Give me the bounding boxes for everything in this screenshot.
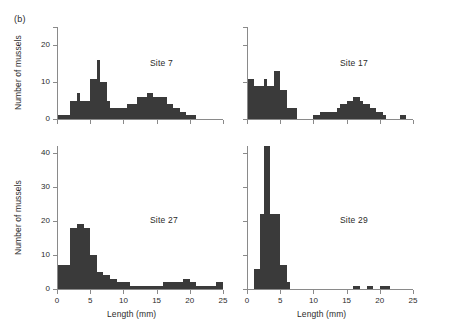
- histogram-bar: [287, 282, 290, 289]
- y-axis-tick: [243, 187, 247, 188]
- x-tick-label: 25: [401, 296, 425, 305]
- x-axis-tick: [313, 290, 314, 294]
- x-tick-label: 15: [335, 296, 359, 305]
- y-axis-tick: [243, 289, 247, 290]
- x-axis-label: Length (mm): [297, 309, 346, 319]
- x-tick-label: 20: [368, 296, 392, 305]
- y-axis-line: [247, 146, 248, 290]
- panel-title: Site 29: [340, 215, 368, 225]
- y-axis-tick: [243, 153, 247, 154]
- histogram-panel-site-29: 0510152025Site 29Length (mm): [0, 0, 449, 326]
- y-axis-tick: [243, 255, 247, 256]
- x-tick-label: 10: [301, 296, 325, 305]
- x-axis-tick: [380, 290, 381, 294]
- x-tick-label: 0: [235, 296, 259, 305]
- figure-container: (b) 01020Site 7Number of musselsSite 170…: [0, 0, 449, 326]
- y-axis-tick: [243, 221, 247, 222]
- x-axis-tick: [247, 290, 248, 294]
- x-axis-tick: [413, 290, 414, 294]
- x-axis-line: [247, 289, 413, 290]
- x-axis-tick: [347, 290, 348, 294]
- x-tick-label: 5: [268, 296, 292, 305]
- x-axis-tick: [280, 290, 281, 294]
